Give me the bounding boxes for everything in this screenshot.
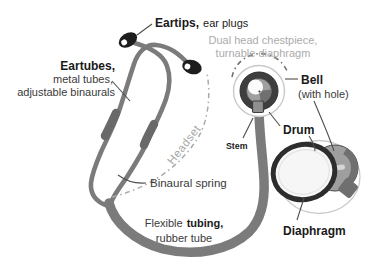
eartubes-label: Eartubes, metal tubes, adjustable binaur… xyxy=(17,59,115,98)
drum-label: Drum xyxy=(283,123,314,137)
binaural-segment-left xyxy=(105,113,116,136)
stethoscope-diagram: Headset Eartips,ear plugs Eartubes, xyxy=(0,0,368,267)
chestpiece-side-view xyxy=(267,138,360,214)
svg-text:Bell: Bell xyxy=(301,73,323,87)
svg-text:(with hole): (with hole) xyxy=(298,88,349,100)
tubing-label: Flexibletubing, rubber tube xyxy=(145,217,224,244)
eartips-label: Eartips,ear plugs xyxy=(155,16,249,30)
bell-label: Bell (with hole) xyxy=(298,73,349,100)
binaural-segment-right xyxy=(144,124,154,145)
headset-label: Headset xyxy=(165,122,203,166)
chestpiece-top-view xyxy=(232,54,287,117)
eartip-left xyxy=(116,29,140,51)
drum-leader-up xyxy=(269,112,280,126)
diaphragm-label: Diaphragm xyxy=(283,224,346,238)
stem-leader xyxy=(243,118,253,138)
stem-label: Stem xyxy=(226,141,248,151)
bell-hole-dot xyxy=(258,90,260,92)
svg-text:rubber tube: rubber tube xyxy=(156,232,212,244)
bell-hole xyxy=(248,79,263,94)
stem-connector xyxy=(253,101,264,113)
chestpiece-label: Dual head chestpiece, turnable diaphragm xyxy=(209,34,318,59)
svg-text:Eartubes,: Eartubes, xyxy=(60,59,115,73)
svg-text:Dual head chestpiece,: Dual head chestpiece, xyxy=(209,34,318,46)
binaural-spring-label: Binaural spring xyxy=(150,177,227,189)
svg-text:adjustable binaurals: adjustable binaurals xyxy=(17,86,115,98)
svg-text:turnable diaphragm: turnable diaphragm xyxy=(216,47,311,59)
svg-text:metal tubes,: metal tubes, xyxy=(53,73,113,85)
svg-text:Flexibletubing,: Flexibletubing, xyxy=(145,217,224,229)
eartips-leader xyxy=(137,24,152,35)
